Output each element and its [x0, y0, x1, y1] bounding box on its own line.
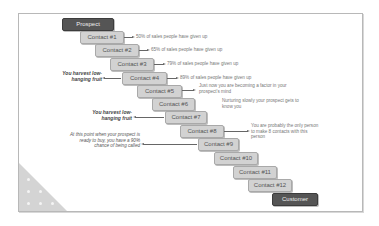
contact-box-2: Contact #2	[95, 44, 139, 57]
note-contact-9-left: At this point when your prospect is read…	[40, 132, 140, 149]
contact-box-5: Contact #5	[137, 85, 182, 98]
decorative-dot	[27, 178, 30, 181]
note-contact-3: 79% of sales people have given up	[167, 61, 238, 67]
decorative-dot	[39, 202, 42, 205]
note-contact-7-left: You harvest low- hanging fruit	[64, 110, 132, 121]
note-contact-7-left-line2: hanging fruit	[64, 116, 132, 122]
decorative-dot	[27, 202, 30, 205]
arrow-right-1	[124, 37, 133, 38]
decorative-dot	[27, 190, 30, 193]
contact-box-3: Contact #3	[110, 58, 154, 71]
arrow-right-5	[182, 90, 194, 91]
note-contact-8: You are probably the only person to make…	[251, 123, 318, 140]
note-contact-5-line2: prospect's mind	[199, 89, 287, 95]
contact-box-12: Contact #12	[248, 179, 292, 192]
contact-box-4: Contact #4	[122, 72, 167, 85]
contact-box-6: Contact #6	[152, 98, 195, 111]
note-contact-4: 89% of sales people have given up	[180, 75, 251, 81]
contact-box-9: Contact #9	[198, 138, 239, 151]
note-contact-8-line3: person	[251, 134, 318, 140]
arrow-left-4	[104, 78, 121, 79]
note-contact-9-left-line3: chance of being called	[40, 143, 140, 149]
note-contact-4-left: You harvest low- hanging fruit	[34, 71, 102, 82]
note-contact-1: 50% of sales people have given up	[136, 34, 207, 40]
note-contact-4-left-line2: hanging fruit	[34, 77, 102, 83]
note-contact-8-line1: You are probably the only person	[251, 123, 318, 129]
note-contact-5-line1: Just now you are becoming a factor in yo…	[199, 83, 287, 89]
note-contact-6-line2: know you	[222, 104, 299, 110]
note-contact-5: Just now you are becoming a factor in yo…	[199, 83, 287, 94]
arrow-left-9	[143, 144, 197, 145]
note-contact-2: 65% of sales people have given up	[151, 47, 222, 53]
arrow-right-2	[139, 50, 148, 51]
arrow-right-3	[154, 64, 164, 65]
arrow-left-7	[135, 117, 164, 118]
contact-box-7: Contact #7	[165, 111, 207, 124]
note-contact-6-line1: Nurturing slowly your prospect gets to	[222, 98, 299, 104]
contact-box-1: Contact #1	[80, 31, 124, 44]
contact-box-10: Contact #10	[214, 152, 258, 165]
decorative-dot	[39, 190, 42, 193]
contact-box-8: Contact #8	[180, 125, 224, 138]
customer-box: Customer	[272, 193, 318, 206]
decorative-dot	[51, 202, 54, 205]
arrow-right-4	[167, 78, 177, 79]
arrow-right-8	[224, 131, 248, 132]
prospect-box: Prospect	[62, 18, 114, 31]
contact-box-11: Contact #11	[233, 166, 277, 179]
note-contact-6: Nurturing slowly your prospect gets to k…	[222, 98, 299, 109]
